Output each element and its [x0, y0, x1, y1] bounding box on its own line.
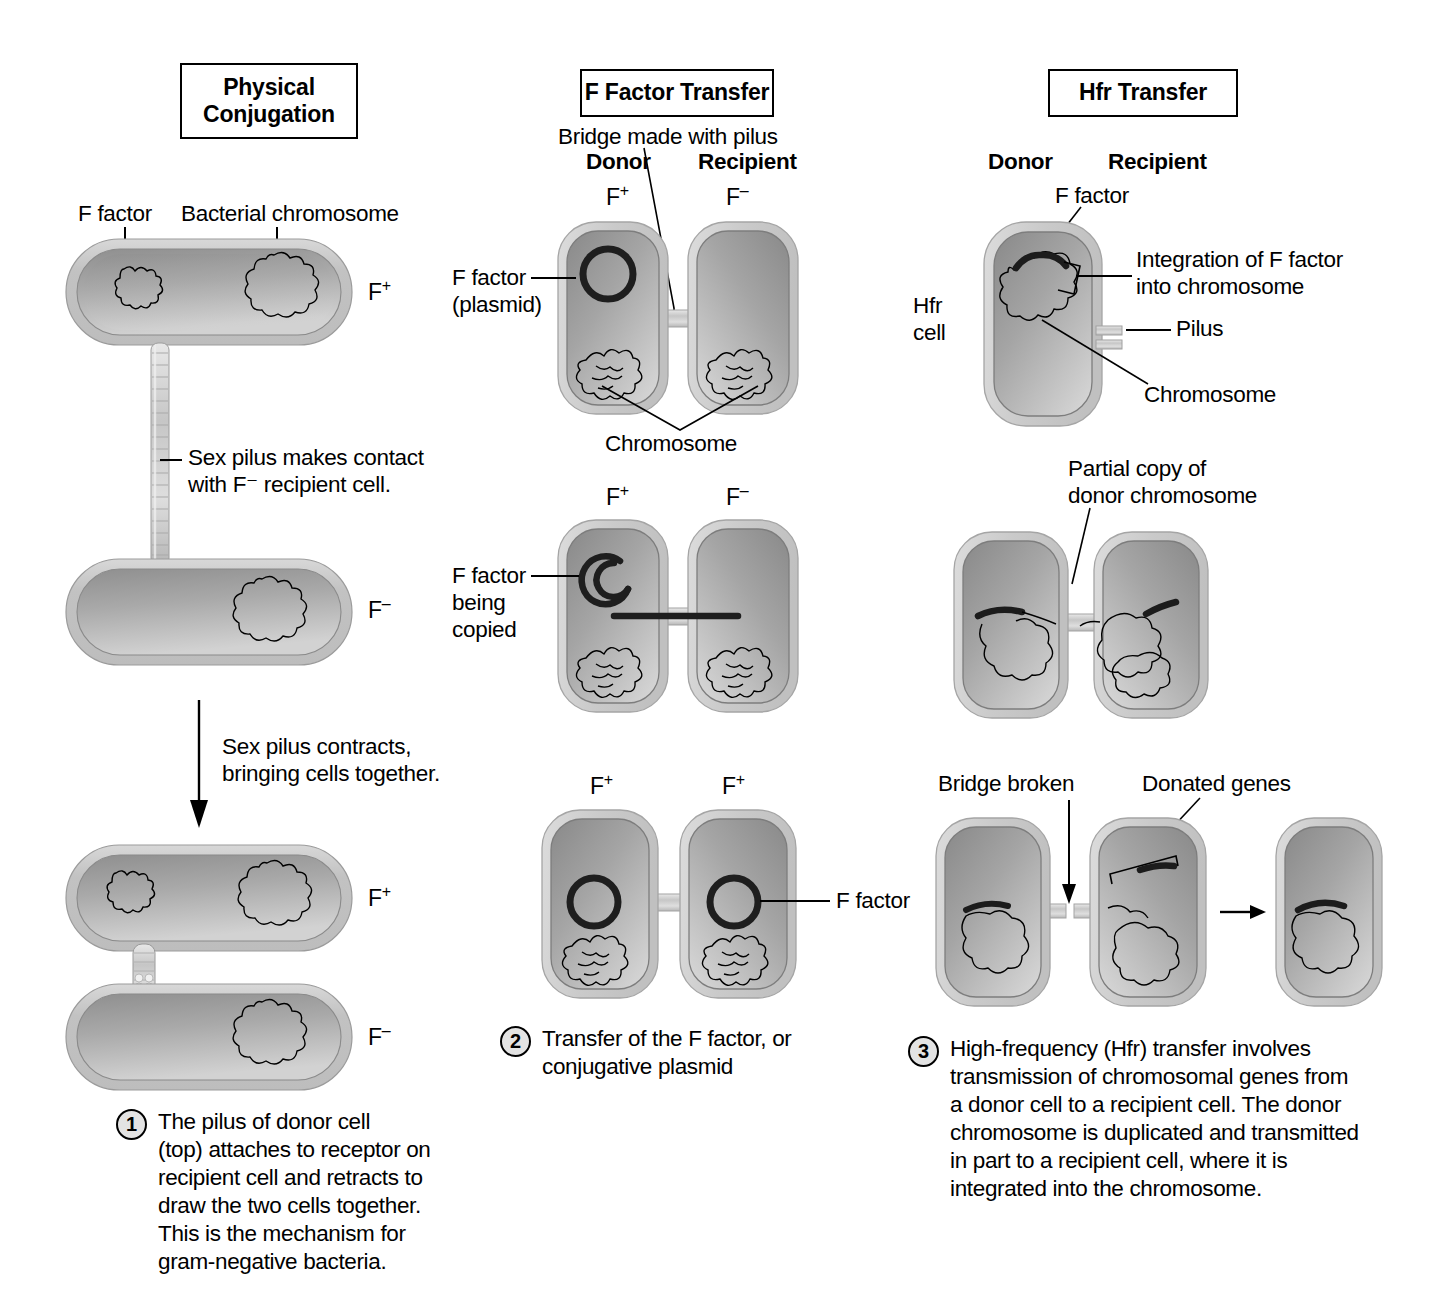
caption-2-text: Transfer of the F factor, or conjugative…	[542, 1025, 791, 1081]
cell-recipient-bottom-left	[64, 982, 354, 1092]
label-hfr-cell: Hfr cell	[913, 292, 946, 346]
label-integration-of-f-factor: Integration of F factor into chromosome	[1136, 246, 1343, 300]
title-f-factor-transfer: F Factor Transfer	[580, 69, 774, 117]
leader-integration	[1076, 275, 1132, 277]
title-hfr-transfer: Hfr Transfer	[1048, 69, 1238, 117]
title-physical-conjugation-text: Physical Conjugation	[203, 74, 335, 128]
label-middle-recipient: Recipient	[698, 148, 797, 175]
state-label-left-cell1: F+	[368, 279, 391, 306]
caption-1-text: The pilus of donor cell (top) attaches t…	[158, 1108, 431, 1276]
cellpair-row2-right	[948, 528, 1216, 722]
label-left-bacterial-chromosome: Bacterial chromosome	[181, 200, 399, 227]
leader-f-factor-right-r3	[760, 900, 830, 902]
arrow-down-left-column	[186, 700, 212, 830]
label-chromosome-right: Chromosome	[1144, 381, 1276, 408]
state-label-mid-r3-left: F+	[590, 773, 613, 800]
leader-pilus-contact	[160, 459, 182, 461]
cellgroup-row3-right	[932, 812, 1384, 1012]
title-f-factor-transfer-text: F Factor Transfer	[585, 79, 770, 106]
label-f-factor-being-copied: F factor being copied	[452, 562, 526, 643]
caption-1: 1 The pilus of donor cell (top) attaches…	[116, 1108, 446, 1276]
label-f-factor-right-r3: F factor	[836, 887, 910, 914]
cell-donor-bottom-left	[64, 843, 354, 953]
label-bridge-made-with-pilus: Bridge made with pilus	[558, 123, 778, 150]
caption-1-number: 1	[116, 1109, 147, 1140]
leader-f-factor-being-copied	[531, 575, 579, 577]
leader-chromosome-right	[1040, 320, 1152, 386]
label-pilus-right: Pilus	[1176, 315, 1223, 342]
caption-3-number: 3	[908, 1036, 939, 1067]
arrow-to-product	[1220, 905, 1266, 919]
state-label-mid-r1-right: F–	[726, 184, 748, 211]
state-label-left-cell3: F+	[368, 885, 391, 912]
cell-recipient-top-left	[64, 557, 354, 667]
state-label-mid-r3-right: F+	[722, 773, 745, 800]
leader-chromosome-middle	[600, 386, 760, 432]
title-physical-conjugation: Physical Conjugation	[180, 63, 358, 139]
note-pilus-contracts: Sex pilus contracts, bringing cells toge…	[222, 733, 440, 787]
figure-canvas: Physical Conjugation F factor Bacterial …	[0, 0, 1433, 1295]
label-f-factor-plasmid: F factor (plasmid)	[452, 264, 542, 318]
state-label-left-cell2: F–	[368, 597, 390, 624]
caption-3: 3 High-frequency (Hfr) transfer involves…	[908, 1035, 1378, 1203]
state-label-mid-r2-right: F–	[726, 484, 748, 511]
label-right-recipient: Recipient	[1108, 148, 1207, 175]
state-label-mid-r2-left: F+	[606, 484, 629, 511]
label-bridge-broken: Bridge broken	[938, 770, 1074, 797]
title-hfr-transfer-text: Hfr Transfer	[1079, 79, 1207, 106]
caption-2-number: 2	[500, 1026, 531, 1057]
label-right-f-factor: F factor	[1055, 182, 1129, 209]
label-right-donor: Donor	[988, 148, 1053, 175]
state-label-left-cell4: F–	[368, 1024, 390, 1051]
note-pilus-makes-contact: Sex pilus makes contact with F⁻ recipien…	[188, 444, 424, 498]
label-donated-genes: Donated genes	[1142, 770, 1291, 797]
cell-donor-top-left	[64, 237, 354, 347]
label-middle-donor: Donor	[586, 148, 651, 175]
caption-3-text: High-frequency (Hfr) transfer involves t…	[950, 1035, 1359, 1203]
cellpair-row3-middle	[536, 806, 802, 1002]
state-label-mid-r1-left: F+	[606, 184, 629, 211]
cellpair-row2-middle	[552, 516, 802, 716]
label-partial-copy: Partial copy of donor chromosome	[1068, 455, 1257, 509]
caption-2: 2 Transfer of the F factor, or conjugati…	[500, 1025, 840, 1081]
label-left-f-factor: F factor	[78, 200, 152, 227]
label-chromosome-middle: Chromosome	[605, 430, 737, 457]
leader-f-factor-plasmid	[531, 277, 576, 279]
sex-pilus-long	[140, 343, 180, 565]
